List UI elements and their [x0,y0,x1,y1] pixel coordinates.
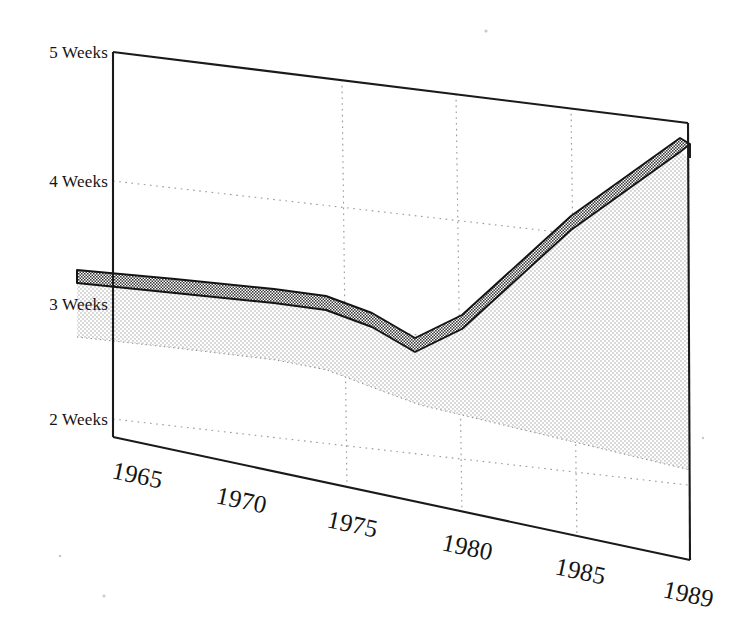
gridline-v-1975 [342,80,347,493]
x-tick-label-1985: 1985 [553,552,608,589]
x-tick-label-1975: 1975 [325,505,380,542]
y-tick-label-3weeks: 3 Weeks [49,295,108,314]
y-tick-label-2weeks: 2 Weeks [49,410,108,429]
y-tick-label-5weeks: 5 Weeks [49,43,108,62]
x-tick-label-1980: 1980 [440,528,495,565]
chart-figure: 5 Weeks 4 Weeks 3 Weeks 2 Weeks 1965 197… [0,0,749,631]
area-chart-svg: 5 Weeks 4 Weeks 3 Weeks 2 Weeks 1965 197… [0,0,749,631]
y-axis-tick-labels: 5 Weeks 4 Weeks 3 Weeks 2 Weeks [49,43,108,429]
gridline-v-1980 [456,94,462,516]
x-axis-line [113,437,690,560]
x-axis-tick-labels: 1965 1970 1975 1980 1985 1989 [110,456,716,612]
x-tick-label-1970: 1970 [214,481,269,518]
top-back-edge [113,52,688,123]
x-tick-label-1989: 1989 [661,575,716,612]
y-tick-label-4weeks: 4 Weeks [49,172,108,191]
x-tick-label-1965: 1965 [110,456,165,493]
